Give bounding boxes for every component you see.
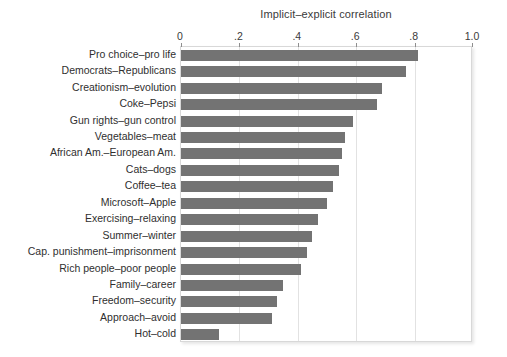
bar <box>181 148 342 159</box>
bar-series <box>181 47 471 341</box>
y-tick-label: Rich people–poor people <box>0 263 176 274</box>
y-tick-label: African Am.–European Am. <box>0 147 176 158</box>
bar <box>181 165 339 176</box>
y-tick-label: Cats–dogs <box>0 164 176 175</box>
bar <box>181 296 277 307</box>
bar <box>181 247 307 258</box>
y-axis-category-labels: Pro choice–pro lifeDemocrats–Republicans… <box>0 46 176 342</box>
bar <box>181 83 382 94</box>
y-tick-label: Hot–cold <box>0 328 176 339</box>
x-axis-tick-labels: 0.2.4.6.81.0 <box>0 30 507 44</box>
x-tick-label: .6 <box>351 30 360 42</box>
x-tick-mark <box>472 43 473 47</box>
y-tick-label: Creationism–evolution <box>0 82 176 93</box>
chart-figure: Implicit–explicit correlation 0.2.4.6.81… <box>0 0 507 357</box>
bar <box>181 99 377 110</box>
y-tick-label: Pro choice–pro life <box>0 49 176 60</box>
bar <box>181 231 312 242</box>
x-tick-label: .8 <box>409 30 418 42</box>
y-tick-label: Coke–Pepsi <box>0 98 176 109</box>
bar <box>181 116 353 127</box>
bar <box>181 329 219 340</box>
bar <box>181 181 333 192</box>
plot-area <box>180 46 472 342</box>
bar <box>181 198 327 209</box>
bar <box>181 132 345 143</box>
y-tick-label: Exercising–relaxing <box>0 213 176 224</box>
x-tick-label: .2 <box>234 30 243 42</box>
y-tick-label: Freedom–security <box>0 295 176 306</box>
bar <box>181 214 318 225</box>
y-tick-label: Microsoft–Apple <box>0 197 176 208</box>
bar <box>181 66 406 77</box>
bar <box>181 313 272 324</box>
y-tick-label: Gun rights–gun control <box>0 115 176 126</box>
x-tick-label: 1.0 <box>465 30 480 42</box>
x-tick-label: 0 <box>177 30 183 42</box>
y-tick-label: Summer–winter <box>0 230 176 241</box>
y-tick-label: Democrats–Republicans <box>0 65 176 76</box>
chart-title: Implicit–explicit correlation <box>180 8 472 20</box>
y-tick-label: Coffee–tea <box>0 180 176 191</box>
y-tick-label: Vegetables–meat <box>0 131 176 142</box>
bar <box>181 264 301 275</box>
bar <box>181 280 283 291</box>
y-tick-label: Family–career <box>0 279 176 290</box>
x-tick-label: .4 <box>292 30 301 42</box>
bar <box>181 50 418 61</box>
y-tick-label: Approach–avoid <box>0 312 176 323</box>
y-tick-label: Cap. punishment–imprisonment <box>0 246 176 257</box>
